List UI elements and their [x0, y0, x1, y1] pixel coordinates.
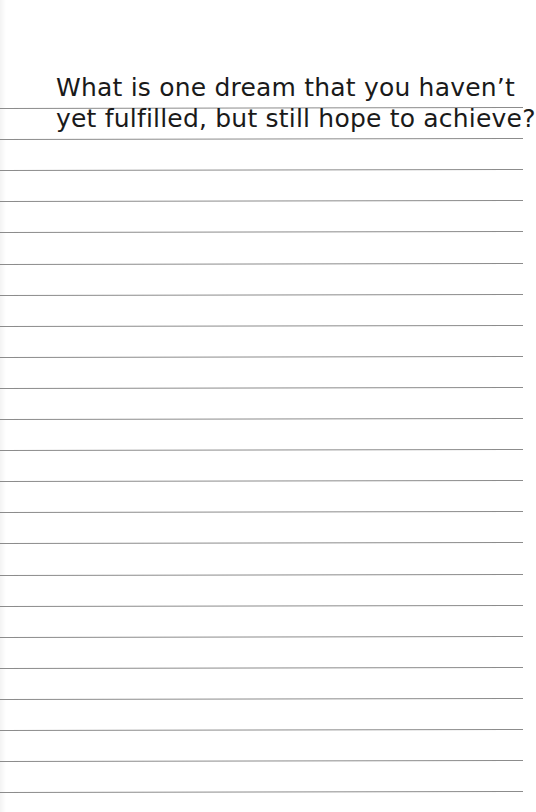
writing-line [0, 667, 523, 669]
writing-line [0, 573, 523, 575]
writing-line [0, 604, 523, 606]
prompt-line-1: What is one dream that you haven’t [56, 72, 536, 103]
writing-line [0, 169, 523, 171]
writing-line [0, 262, 523, 264]
journal-prompt: What is one dream that you haven’t yet f… [56, 72, 536, 134]
writing-line [0, 418, 523, 420]
writing-line [0, 449, 523, 451]
writing-line [0, 387, 523, 389]
writing-line [0, 325, 523, 327]
writing-line [0, 760, 523, 762]
writing-line [0, 138, 523, 140]
writing-line [0, 480, 523, 482]
prompt-line-2: yet fulfilled, but still hope to achieve… [56, 103, 536, 134]
writing-line [0, 729, 523, 731]
writing-line [0, 542, 523, 544]
writing-line [0, 200, 523, 202]
writing-line [0, 231, 523, 233]
writing-line [0, 293, 523, 295]
writing-line [0, 356, 523, 358]
writing-line [0, 636, 523, 638]
writing-line [0, 698, 523, 700]
writing-line [0, 791, 523, 793]
writing-line [0, 511, 523, 513]
